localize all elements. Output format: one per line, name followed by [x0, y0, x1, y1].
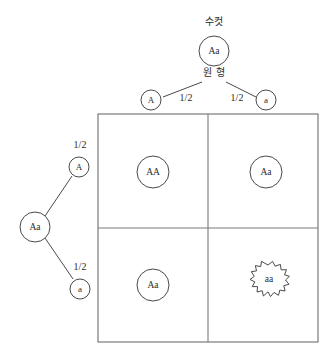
female-parent-genotype: Aa	[29, 222, 41, 232]
offspring-genotype-bottom-left: Aa	[147, 280, 159, 290]
offspring-cell-bottom-right: aa	[250, 261, 289, 296]
male-parent-genotype: Aa	[208, 46, 220, 56]
female-gamete-allele-recessive: a	[78, 284, 82, 294]
female-gamete-probability-top: 1/2	[74, 139, 87, 150]
offspring-genotype-top-left: AA	[146, 167, 160, 177]
female-branch-line-top	[45, 176, 72, 216]
female-parent-group: Aa 1/2 1/2 A a	[20, 139, 90, 299]
female-gamete-probability-bottom: 1/2	[74, 261, 87, 272]
female-branch-line-bottom	[45, 238, 73, 279]
female-gamete-allele-dominant: A	[76, 162, 83, 172]
male-gamete-allele-dominant: A	[148, 95, 155, 105]
offspring-genotype-bottom-right: aa	[265, 274, 274, 284]
male-gamete-probability-right: 1/2	[231, 92, 244, 103]
offspring-cell-bottom-left: Aa	[137, 269, 169, 301]
punnett-square-diagram: 수컷 Aa 원 형 1/2 1/2 A a Aa 1/2 1/2 A	[0, 0, 336, 361]
male-parent-group: 수컷 Aa 원 형 1/2 1/2 A a	[141, 16, 276, 110]
offspring-cell-top-right: Aa	[250, 156, 282, 188]
male-gamete-probability-left: 1/2	[180, 92, 193, 103]
punnett-grid	[98, 114, 318, 342]
male-parent-label: 수컷	[205, 16, 223, 27]
male-gamete-allele-recessive: a	[264, 95, 268, 105]
offspring-cell-top-left: AA	[137, 156, 169, 188]
male-phenotype-label: 원 형	[203, 67, 224, 78]
diagram-canvas: 수컷 Aa 원 형 1/2 1/2 A a Aa 1/2 1/2 A	[0, 0, 336, 361]
offspring-genotype-top-right: Aa	[260, 167, 272, 177]
